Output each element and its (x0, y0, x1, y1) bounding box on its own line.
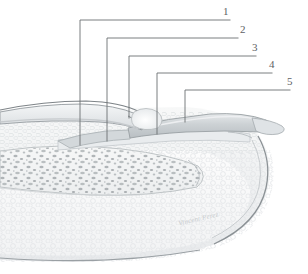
label-2: 2 (240, 24, 246, 35)
label-3: 3 (252, 42, 258, 53)
nail-unit-illustration (0, 0, 308, 274)
label-1: 1 (223, 6, 229, 17)
label-5: 5 (287, 76, 293, 87)
label-4: 4 (269, 59, 275, 70)
nail-anatomy-figure: 1 2 3 4 5 Vincent Perez (0, 0, 308, 274)
